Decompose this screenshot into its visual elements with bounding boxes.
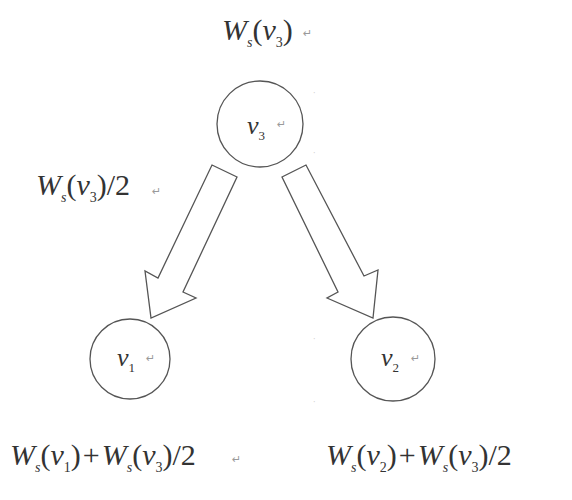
- node-v2: v2 ↵: [351, 317, 435, 401]
- ghost-mark: ·: [313, 149, 316, 158]
- paragraph-mark-icon: ↵: [232, 453, 241, 466]
- svg-text:Ws(v1)+Ws(v3)/2: Ws(v1)+Ws(v3)/2: [10, 438, 196, 475]
- svg-text:Ws(v3): Ws(v3): [222, 13, 293, 50]
- bottom-right-weight-label: Ws(v2)+Ws(v3)/2: [326, 438, 512, 475]
- svg-text:Ws(v2)+Ws(v3)/2: Ws(v2)+Ws(v3)/2: [326, 438, 512, 475]
- node-v3: v3 ↵: [217, 81, 303, 167]
- svg-text:Ws(v3)/2: Ws(v3)/2: [36, 168, 130, 205]
- paragraph-mark-icon: ↵: [146, 352, 155, 365]
- node-v1: v1 ↵: [90, 319, 170, 399]
- diagram-canvas: Ws(v3) ↵ Ws(v3)/2 ↵ · · · · v3 ↵ v1 ↵ v: [0, 0, 572, 500]
- arrow-v3-to-v2: [282, 165, 378, 318]
- paragraph-mark-icon: ↵: [303, 27, 312, 40]
- top-weight-label: Ws(v3) ↵: [222, 13, 312, 50]
- bottom-left-weight-label: Ws(v1)+Ws(v3)/2 ↵: [10, 438, 241, 475]
- ghost-mark: ·: [313, 89, 316, 98]
- ghost-mark: ·: [313, 335, 316, 344]
- paragraph-mark-icon: ↵: [277, 118, 286, 131]
- paragraph-mark-icon: ↵: [411, 352, 420, 365]
- paragraph-mark-icon: ↵: [152, 185, 161, 198]
- edge-weight-label: Ws(v3)/2 ↵: [36, 168, 161, 205]
- ghost-mark: ·: [313, 398, 316, 407]
